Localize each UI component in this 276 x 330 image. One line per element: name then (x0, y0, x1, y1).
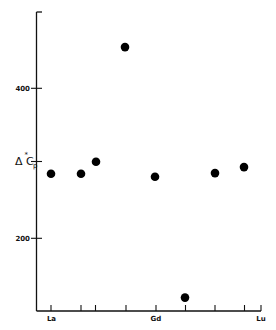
data-point (181, 293, 190, 302)
data-point (240, 163, 249, 172)
x-tick-label-la: La (47, 315, 56, 323)
y-tick-label-400: 400 (15, 85, 30, 93)
data-points (47, 43, 249, 302)
data-point (211, 169, 220, 178)
x-tick-label-lu: Lu (256, 315, 265, 323)
data-point (121, 43, 130, 52)
y-label-delta: Δ (15, 155, 23, 168)
y-axis-label: Δ * C p (15, 151, 38, 170)
data-point (47, 170, 56, 179)
y-axis: 400 200 Δ * C p (15, 12, 42, 311)
x-tick-label-gd: Gd (151, 315, 162, 323)
x-axis: La Gd Lu (37, 305, 266, 323)
data-point (151, 173, 160, 182)
y-label-sub-p: p (33, 162, 38, 170)
data-point (77, 170, 86, 179)
scatter-chart: 400 200 Δ * C p La Gd Lu (0, 0, 276, 330)
y-tick-label-200: 200 (15, 235, 30, 243)
data-point (92, 158, 101, 167)
